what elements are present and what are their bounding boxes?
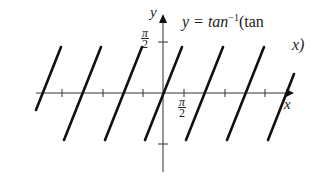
y-axis-arrow-icon [159, 14, 167, 23]
x-axis-label: x [284, 96, 291, 113]
y-tick-label-pi-over-2: π 2 [141, 28, 149, 49]
chart-plot [0, 0, 324, 178]
chart-title: y = tan−1(tan [182, 12, 264, 31]
chart-title-tail: x) [292, 36, 304, 54]
x-tick-label-pi-over-2: π 2 [178, 97, 186, 118]
y-axis-label: y [150, 4, 157, 21]
branch-1 [36, 47, 61, 110]
